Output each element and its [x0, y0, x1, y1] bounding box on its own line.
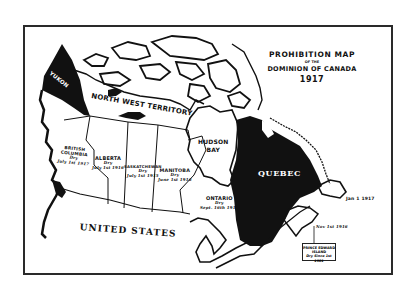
map-title: PROHIBITION MAP OF THE DOMINION OF CANAD… — [252, 50, 372, 84]
title-line2: OF THE — [252, 60, 372, 64]
pei-label-box: PRINCE EDWARD ISLAND Dry Since 1st 1901 — [302, 243, 336, 261]
label-nova-scotia-date: Nov 1st 1916 — [316, 225, 348, 230]
label-saskatchewan: SASKATCHEWAN Dry July 1st 1915 — [124, 164, 162, 178]
label-british-columbia: BRITISH COLUMBIA Dry July 1st 1917 — [57, 144, 91, 166]
title-line1: PROHIBITION MAP — [252, 50, 372, 59]
quebec-region — [230, 116, 322, 246]
newfoundland — [318, 180, 346, 198]
title-line3: DOMINION OF CANADA — [252, 65, 372, 73]
title-year: 1917 — [252, 75, 372, 84]
label-newfoundland-date: Jan 1 1917 — [346, 196, 375, 201]
label-ontario: ONTARIO Dry Sept. 16th 1916 — [200, 196, 239, 210]
label-alberta: ALBERTA Dry July 1st 1916 — [92, 156, 124, 170]
label-manitoba: MANITOBA Dry June 1st 1916 — [158, 168, 192, 182]
label-quebec: QUEBEC — [258, 168, 301, 178]
great-slave-lake — [118, 112, 146, 120]
pacific-coastline — [40, 90, 60, 238]
label-hudson-bay: HUDSON BAY — [198, 138, 229, 154]
